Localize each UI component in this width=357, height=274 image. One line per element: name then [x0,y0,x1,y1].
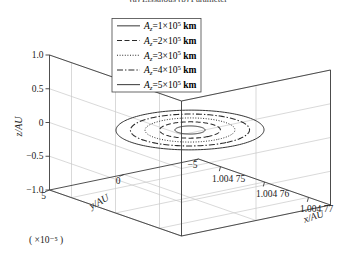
y-tick-label: 5 [41,191,46,201]
x-tick-label: 1.004 76 [256,189,290,199]
figure-container: (a) Lissajous (b) Parameter 1.00.50−0.5−… [0,0,357,274]
z-tick-label: 0.5 [32,84,44,94]
z-axis-title: z/AU [13,116,24,138]
x-tick-label: 1.004 75 [212,174,246,184]
z-tick-label: −0.5 [26,151,43,161]
legend: Az=1×105 kmAz=2×105 kmAz=3×105 kmAz=4×10… [112,19,201,93]
z-tick-label: 1.0 [32,50,44,60]
y-axis-multiplier: ( ×10⁻⁵ ) [29,235,63,246]
y-tick-label: −5 [187,160,197,170]
z-tick-label: 0 [39,118,44,128]
plot-3d-axes: 1.00.50−0.5−1.050−51.004 751.004 761.004… [0,0,357,274]
y-tick-label: 0 [116,176,121,186]
